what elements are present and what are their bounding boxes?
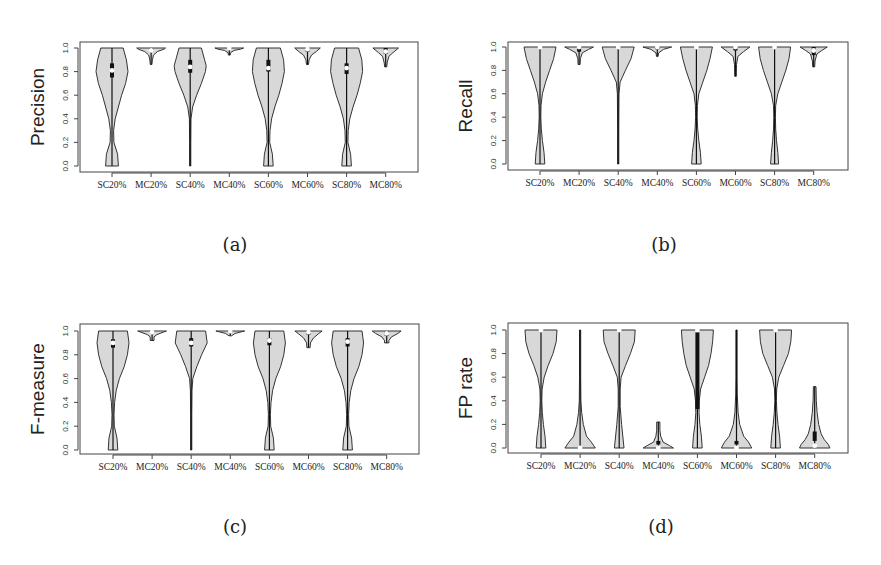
y-tick-label: 0.2 xyxy=(489,134,498,146)
y-tick-label: 0.6 xyxy=(61,89,70,101)
plot-frame xyxy=(508,42,848,170)
x-tick-label: MC40% xyxy=(642,461,674,471)
violin-mc20pct xyxy=(565,330,595,450)
x-tick-label: SC60% xyxy=(682,178,711,188)
y-tick-label: 0.8 xyxy=(61,349,70,361)
y-tick-label: 0.6 xyxy=(61,372,70,384)
violin-mc20pct xyxy=(138,330,167,341)
violin-sc80pct xyxy=(759,45,791,164)
violin-sc20pct xyxy=(524,45,556,164)
y-tick-label: 1.0 xyxy=(61,325,70,337)
violin-sc20pct xyxy=(525,328,557,448)
y-tick-label: 0.8 xyxy=(489,64,498,76)
x-tick-label: SC20% xyxy=(526,461,555,471)
violin-sc40pct xyxy=(603,328,635,448)
x-tick-label: SC80% xyxy=(760,178,789,188)
x-tick-label: MC40% xyxy=(641,178,673,188)
violin-mc40pct xyxy=(215,46,244,56)
y-tick-label: 0.4 xyxy=(489,111,498,123)
y-tick-label: 0.6 xyxy=(489,88,498,100)
violin-mc20pct xyxy=(137,48,166,65)
violin-sc40pct xyxy=(174,48,206,166)
x-tick-label: SC60% xyxy=(255,462,284,472)
x-tick-label: MC80% xyxy=(798,178,830,188)
x-tick-label: SC80% xyxy=(332,180,361,190)
plot-frame xyxy=(80,324,419,454)
y-tick-label: 0.4 xyxy=(61,396,70,408)
y-axis-label: FP rate xyxy=(455,357,476,419)
violin-sc80pct xyxy=(760,328,792,448)
x-tick-label: MC80% xyxy=(371,462,403,472)
x-tick-label: MC20% xyxy=(135,180,167,190)
x-tick-label: MC60% xyxy=(291,180,323,190)
y-axis-label: Precision xyxy=(27,68,48,146)
x-tick-label: SC20% xyxy=(525,178,554,188)
y-tick-label: 0.0 xyxy=(489,442,498,454)
caption-d: (d) xyxy=(648,516,674,537)
x-tick-label: MC20% xyxy=(136,462,168,472)
y-tick-label: 0.4 xyxy=(489,395,498,407)
y-tick-label: 0.0 xyxy=(489,158,498,170)
violin-mc60pct xyxy=(295,330,322,348)
violin-mc80pct xyxy=(800,47,827,67)
violin-sc60pct xyxy=(252,48,284,166)
caption-b: (b) xyxy=(651,234,677,255)
violin-figure: 0.00.20.40.60.81.0PrecisionSC20%MC20%SC4… xyxy=(0,0,881,565)
x-tick-label: SC40% xyxy=(605,461,634,471)
violin-mc60pct xyxy=(721,45,750,77)
violin-sc60pct xyxy=(680,45,712,164)
x-tick-label: SC20% xyxy=(97,180,126,190)
plot-frame xyxy=(80,42,418,172)
x-tick-label: MC60% xyxy=(292,462,324,472)
x-tick-label: MC80% xyxy=(370,180,402,190)
violin-sc20pct xyxy=(97,331,129,450)
violin-sc40pct xyxy=(602,45,634,164)
x-tick-label: MC40% xyxy=(214,462,246,472)
violin-mc40pct xyxy=(643,45,672,57)
violin-mc80pct xyxy=(372,331,401,343)
y-tick-label: 0.6 xyxy=(489,371,498,383)
y-tick-label: 0.2 xyxy=(489,418,498,430)
violin-sc60pct xyxy=(253,331,285,450)
y-axis-label: F-measure xyxy=(27,343,48,435)
violin-mc60pct xyxy=(721,330,751,450)
y-tick-label: 0.2 xyxy=(61,136,70,148)
violin-sc40pct xyxy=(175,331,207,450)
y-axis-label: Recall xyxy=(455,80,476,133)
caption-a: (a) xyxy=(223,234,248,255)
x-tick-label: MC80% xyxy=(799,461,831,471)
violin-mc80pct xyxy=(800,387,830,448)
x-tick-label: SC60% xyxy=(254,180,283,190)
x-tick-label: SC60% xyxy=(683,461,712,471)
violin-sc80pct xyxy=(331,48,363,166)
y-tick-label: 0.8 xyxy=(489,347,498,359)
violin-mc60pct xyxy=(295,47,321,65)
x-tick-label: SC80% xyxy=(333,462,362,472)
panel-precision: 0.00.20.40.60.81.0PrecisionSC20%MC20%SC4… xyxy=(27,42,418,190)
x-tick-label: SC40% xyxy=(177,462,206,472)
panel-f-measure: 0.00.20.40.60.81.0F-measureSC20%MC20%SC4… xyxy=(27,324,419,472)
x-tick-label: MC20% xyxy=(564,461,596,471)
x-tick-label: SC20% xyxy=(98,462,127,472)
x-tick-label: SC80% xyxy=(761,461,790,471)
x-tick-label: MC60% xyxy=(720,461,752,471)
violin-sc20pct xyxy=(96,48,128,166)
violin-mc40pct xyxy=(216,329,245,336)
x-tick-label: MC40% xyxy=(213,180,245,190)
panel-fp-rate: 0.00.20.40.60.81.0FP rateSC20%MC20%SC40%… xyxy=(455,323,848,471)
violin-sc80pct xyxy=(332,331,364,450)
violin-mc80pct xyxy=(373,48,399,67)
violin-sc60pct xyxy=(681,328,713,448)
x-tick-label: MC60% xyxy=(719,178,751,188)
y-tick-label: 0.8 xyxy=(61,65,70,77)
x-tick-label: MC20% xyxy=(563,178,595,188)
violin-mc20pct xyxy=(565,45,594,65)
y-tick-label: 1.0 xyxy=(61,42,70,54)
plot-frame xyxy=(508,323,848,453)
y-tick-label: 1.0 xyxy=(489,41,498,53)
y-tick-label: 0.0 xyxy=(61,444,70,456)
violin-mc40pct xyxy=(643,422,673,450)
x-tick-label: SC40% xyxy=(176,180,205,190)
y-tick-label: 0.2 xyxy=(61,420,70,432)
caption-c: (c) xyxy=(223,516,247,537)
